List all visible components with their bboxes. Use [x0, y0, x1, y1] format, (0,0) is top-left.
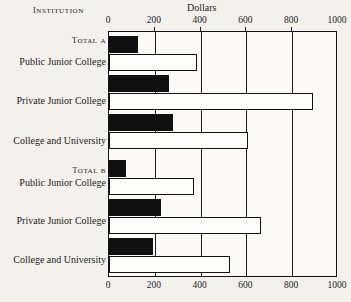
- group-label-total-a: Total A: [72, 33, 106, 45]
- row-label-0: Public Junior College: [19, 56, 106, 67]
- bar-white-3: [109, 178, 194, 195]
- gridline-600: [246, 32, 247, 276]
- row-label-1: Private Junior College: [17, 95, 106, 106]
- bar-black-3: [109, 160, 126, 177]
- xtick-top-3: 600: [238, 15, 252, 25]
- bar-black-4: [109, 199, 161, 216]
- bar-black-0: [109, 36, 138, 53]
- bar-black-1: [109, 75, 169, 92]
- xtick-top-1: 200: [147, 15, 161, 25]
- chart-title: Dollars: [187, 2, 216, 13]
- xtick-bottom-1: 200: [147, 280, 161, 290]
- xtick-top-0: 0: [106, 15, 111, 25]
- group-label-total-b: Total B: [72, 163, 106, 175]
- bar-white-4: [109, 217, 261, 234]
- row-label-5: College and University: [13, 254, 106, 265]
- xtick-bottom-3: 600: [238, 280, 252, 290]
- bar-white-1: [109, 93, 313, 110]
- bar-white-2: [109, 132, 248, 149]
- xtick-top-2: 400: [192, 15, 206, 25]
- bar-white-0: [109, 54, 197, 71]
- gridline-800: [292, 32, 293, 276]
- row-label-4: Private Junior College: [17, 215, 106, 226]
- gridline-400: [201, 32, 202, 276]
- xtick-bottom-4: 800: [284, 280, 298, 290]
- bar-black-5: [109, 238, 153, 255]
- xtick-top-5: 1000: [328, 15, 347, 25]
- row-label-column: Total A Public Junior College Private Ju…: [0, 0, 106, 302]
- bar-black-2: [109, 114, 173, 131]
- bar-chart: Institution Dollars Total A Public Junio…: [0, 0, 351, 302]
- xtick-bottom-2: 400: [192, 280, 206, 290]
- bar-white-5: [109, 256, 230, 273]
- row-label-3: Public Junior College: [19, 177, 106, 188]
- plot-area: [108, 31, 337, 277]
- xtick-bottom-0: 0: [106, 280, 111, 290]
- xtick-bottom-5: 1000: [328, 280, 347, 290]
- row-label-2: College and University: [13, 135, 106, 146]
- xtick-top-4: 800: [284, 15, 298, 25]
